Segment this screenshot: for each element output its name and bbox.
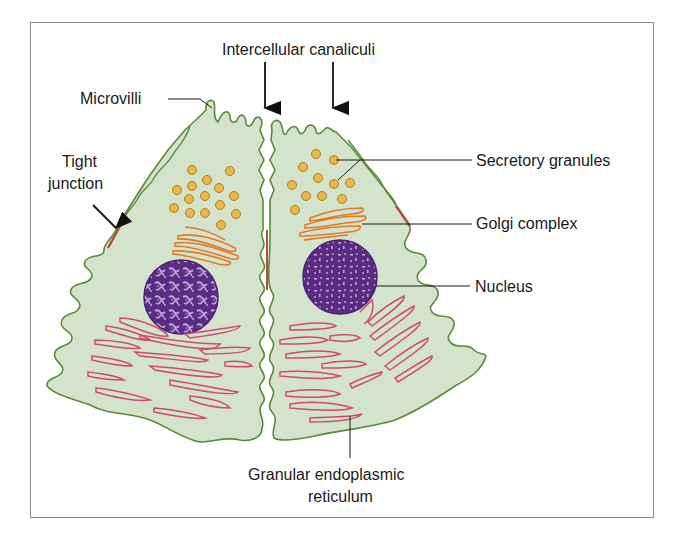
label-secretory-granules: Secretory granules — [476, 151, 610, 170]
label-golgi-complex: Golgi complex — [476, 214, 577, 233]
left-nucleus — [144, 260, 218, 334]
label-nucleus: Nucleus — [475, 277, 533, 296]
tight-junction-arrow — [93, 205, 116, 228]
label-granular-er-line1: Granular endoplasmic — [248, 465, 405, 484]
label-microvilli: Microvilli — [80, 89, 141, 108]
right-nucleus — [303, 240, 377, 314]
label-granular-er-line2: reticulum — [308, 487, 373, 506]
secretory-cells-diagram — [0, 0, 689, 536]
label-tight-junction-line1: Tight — [62, 152, 97, 171]
label-intercellular-canaliculi: Intercellular canaliculi — [222, 40, 375, 59]
label-tight-junction-line2: junction — [48, 174, 103, 193]
